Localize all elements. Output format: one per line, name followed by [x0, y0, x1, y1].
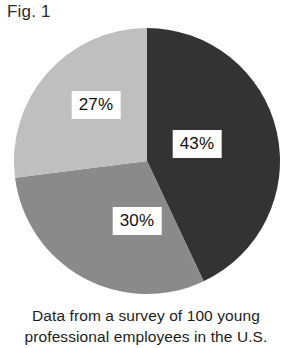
pie-slice-label-43: 43% — [173, 130, 222, 158]
caption-line-1: Data from a survey of 100 young — [0, 305, 292, 326]
caption-line-2: professional employees in the U.S. — [0, 326, 292, 347]
pie-chart: 43% 30% 27% — [0, 0, 292, 300]
figure-caption: Data from a survey of 100 young professi… — [0, 305, 292, 347]
pie-slice-label-27: 27% — [72, 91, 121, 119]
figure-container: Fig. 1 43% 30% 27% Data from a survey of… — [0, 0, 292, 348]
pie-slice-label-30: 30% — [113, 207, 162, 235]
pie-chart-svg — [0, 0, 292, 300]
